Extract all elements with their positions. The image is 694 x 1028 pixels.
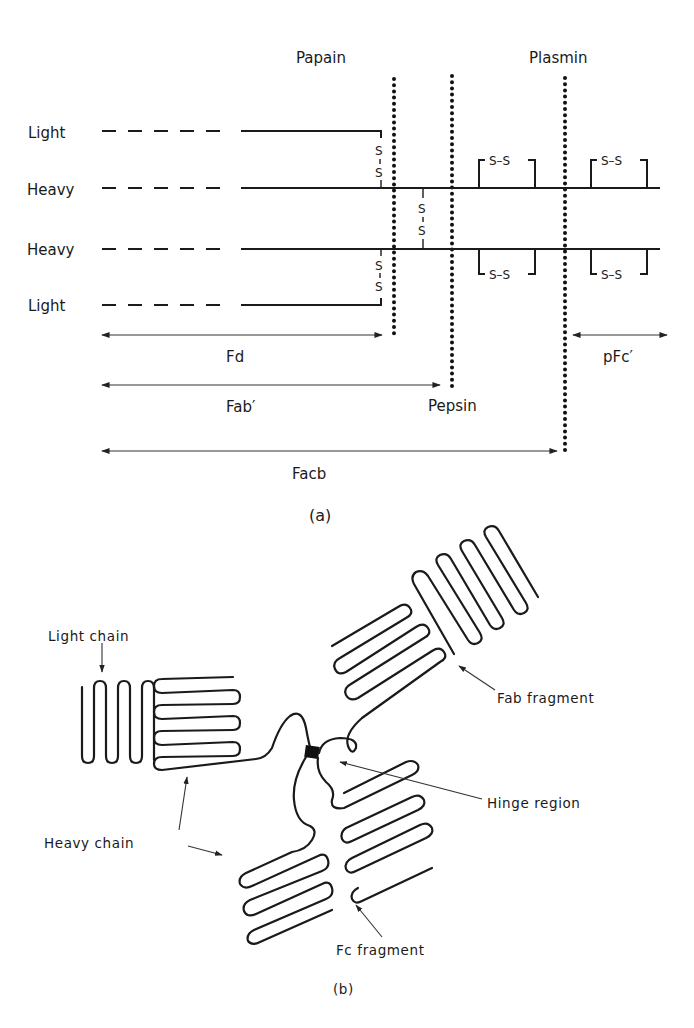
figure-b-caption: (b) <box>333 981 354 997</box>
intrachain-disulfide-ch2-top: S–S <box>479 154 535 188</box>
intrachain-disulfide-ch2-bottom: S–S <box>479 249 535 282</box>
fd-label: Fd <box>226 348 244 366</box>
fab-fragment-label: Fab fragment <box>497 690 594 706</box>
fab-prime-label: Fab′ <box>226 398 256 416</box>
right-fab-heavy-chain <box>319 605 445 753</box>
pfc-prime-extent: pFc′ <box>573 335 667 366</box>
fc-fragment-label: Fc fragment <box>336 942 425 958</box>
figure-b: Light chain Heavy chain Fab fragment Hin… <box>44 526 594 997</box>
facb-extent: Facb <box>102 451 557 483</box>
heavy-chain-pointer-up <box>179 777 187 830</box>
plasmin-label: Plasmin <box>529 49 588 67</box>
disulfide-light-heavy-bottom: S S <box>375 249 383 294</box>
fc-heavy-chain-right <box>318 758 433 903</box>
hinge-region-label: Hinge region <box>487 795 581 811</box>
chain-label-light-top: Light <box>28 124 66 142</box>
svg-text:S: S <box>418 202 426 216</box>
heavy-chain-label: Heavy chain <box>44 835 134 851</box>
chain-label-heavy-top: Heavy <box>27 181 75 199</box>
light-chain-bottom <box>102 298 381 305</box>
pfc-prime-label: pFc′ <box>603 348 633 366</box>
svg-text:S: S <box>375 144 383 158</box>
svg-text:S–S: S–S <box>489 268 510 282</box>
fc-heavy-chain-left <box>240 757 333 944</box>
pepsin-label: Pepsin <box>428 397 477 415</box>
papain-label: Papain <box>296 49 346 67</box>
svg-text:S: S <box>375 280 383 294</box>
svg-text:S–S: S–S <box>601 268 622 282</box>
figure-a: Papain Plasmin Pepsin Light Heavy Heavy … <box>27 49 667 525</box>
chain-label-light-bottom: Light <box>28 297 66 315</box>
svg-text:S–S: S–S <box>489 154 510 168</box>
svg-text:S–S: S–S <box>601 154 622 168</box>
disulfide-light-heavy-top: S S <box>375 144 383 188</box>
fab-fragment-pointer <box>459 666 495 690</box>
facb-label: Facb <box>292 465 326 483</box>
svg-text:S: S <box>418 224 426 238</box>
fab-prime-extent: Fab′ <box>102 385 440 416</box>
figure-a-caption: (a) <box>309 506 331 525</box>
svg-text:S: S <box>375 259 383 273</box>
fc-fragment-pointer <box>356 905 382 937</box>
light-chain-top <box>102 131 381 138</box>
heavy-chain-pointer-right <box>188 846 222 855</box>
intrachain-disulfide-ch3-bottom: S–S <box>591 249 647 282</box>
chain-label-heavy-bottom: Heavy <box>27 241 75 259</box>
disulfide-heavy-heavy: S S <box>418 188 426 249</box>
left-fab-light-chain <box>82 681 154 763</box>
intrachain-disulfide-ch3-top: S–S <box>591 154 647 188</box>
hinge-region-pointer <box>340 762 482 799</box>
left-fab-heavy-chain <box>154 677 312 770</box>
right-fab-light-chain <box>412 526 538 654</box>
fd-extent: Fd <box>102 335 382 366</box>
light-chain-label: Light chain <box>48 628 129 644</box>
antibody-diagram: Papain Plasmin Pepsin Light Heavy Heavy … <box>0 0 694 1028</box>
svg-text:S: S <box>375 166 383 180</box>
